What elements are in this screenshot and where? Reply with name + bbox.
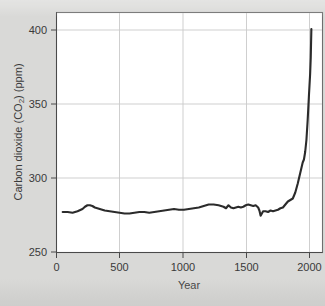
x-tick-label-2000: 2000 xyxy=(297,261,321,273)
x-tick-labels: 0 500 1000 1500 2000 xyxy=(53,261,321,273)
plot-area-frame xyxy=(57,13,323,253)
chart-svg: 400 350 300 250 0 500 1000 1500 2000 Yea… xyxy=(0,0,325,306)
co2-chart-figure: 400 350 300 250 0 500 1000 1500 2000 Yea… xyxy=(0,0,325,306)
y-tick-label-300: 300 xyxy=(29,172,47,184)
x-tick-label-1500: 1500 xyxy=(234,261,258,273)
x-axis-title: Year xyxy=(178,279,201,291)
y-tick-label-350: 350 xyxy=(29,98,47,110)
x-tick-label-0: 0 xyxy=(53,261,59,273)
y-tick-marks xyxy=(51,30,57,252)
y-axis-title-suffix: ) (ppm) xyxy=(12,63,24,98)
x-tick-label-500: 500 xyxy=(110,261,128,273)
y-tick-label-400: 400 xyxy=(29,24,47,36)
x-tick-marks xyxy=(57,253,310,259)
y-tick-labels: 400 350 300 250 xyxy=(29,24,47,258)
y-axis-title-prefix: Carbon dioxide (CO xyxy=(12,103,24,201)
x-tick-label-1000: 1000 xyxy=(171,261,195,273)
y-axis-title: Carbon dioxide (CO2) (ppm) xyxy=(12,63,26,200)
y-tick-label-250: 250 xyxy=(29,246,47,258)
